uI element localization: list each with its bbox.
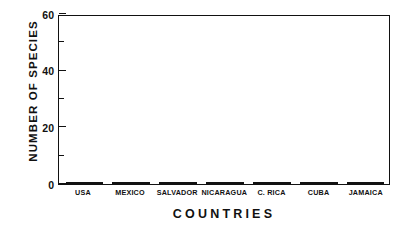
y-tick-label-60: 60 bbox=[30, 10, 54, 21]
bar-salvador[interactable] bbox=[159, 182, 197, 184]
x-tick-label-jamaica: JAMAICA bbox=[334, 187, 397, 197]
bar-usa[interactable] bbox=[66, 182, 104, 184]
y-tick-major-60 bbox=[59, 13, 66, 14]
x-axis-tick-labels: USA MEXICO SALVADOR NICARAGUA C. RICA CU… bbox=[58, 188, 390, 202]
bar-slot-c-rica bbox=[253, 182, 291, 184]
bar-jamaica[interactable] bbox=[347, 182, 385, 184]
bar-slot-cuba bbox=[300, 182, 338, 184]
bar-nicaragua[interactable] bbox=[206, 182, 244, 184]
plot-area bbox=[58, 15, 390, 185]
bar-slot-jamaica bbox=[347, 182, 385, 184]
bar-c-rica[interactable] bbox=[253, 182, 291, 184]
bar-chart-figure: NUMBER OF SPECIES 0 20 40 60 USA MEXICO bbox=[0, 0, 397, 238]
y-tick-label-40: 40 bbox=[30, 66, 54, 77]
bar-series bbox=[59, 16, 389, 184]
bar-mexico[interactable] bbox=[112, 182, 150, 184]
bar-cuba[interactable] bbox=[300, 182, 338, 184]
bar-slot-usa bbox=[66, 182, 104, 184]
bar-slot-nicaragua bbox=[206, 182, 244, 184]
bar-slot-mexico bbox=[112, 182, 150, 184]
bar-slot-salvador bbox=[159, 182, 197, 184]
x-axis-title: COUNTRIES bbox=[58, 207, 390, 221]
y-tick-label-20: 20 bbox=[30, 123, 54, 134]
y-axis-tick-labels: 0 20 40 60 bbox=[26, 15, 54, 185]
